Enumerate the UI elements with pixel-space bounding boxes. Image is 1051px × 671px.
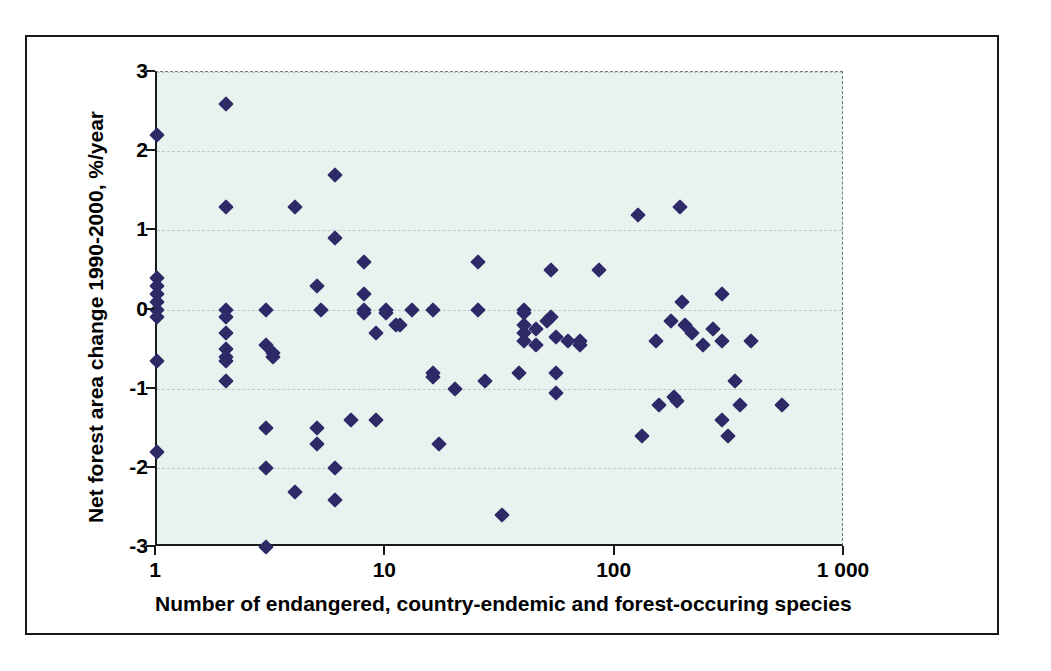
x-tick-label-10: 10	[373, 558, 396, 582]
data-point	[714, 333, 730, 349]
data-point	[727, 373, 743, 389]
data-point	[310, 278, 326, 294]
gridline-y-2	[157, 151, 842, 152]
data-point	[774, 397, 790, 413]
x-tick-label-1000: 1 000	[817, 558, 870, 582]
data-point	[310, 436, 326, 452]
data-point	[356, 254, 372, 270]
data-point	[705, 322, 721, 338]
data-point	[218, 325, 234, 341]
x-axis-title: Number of endangered, country-endemic an…	[155, 592, 843, 616]
y-tick-label--2: -2	[108, 455, 148, 479]
data-point	[287, 484, 303, 500]
data-point	[721, 428, 737, 444]
data-point	[648, 333, 664, 349]
y-tick-label-2: 2	[108, 138, 148, 162]
x-tick-1	[154, 546, 156, 555]
data-point	[672, 199, 688, 215]
data-point	[425, 302, 441, 318]
data-point	[328, 230, 344, 246]
y-tick-label-0: 0	[108, 297, 148, 321]
data-point	[714, 413, 730, 429]
data-point	[259, 420, 275, 436]
x-tick-100	[613, 546, 615, 555]
data-point	[548, 365, 564, 381]
data-point	[431, 436, 447, 452]
y-tick-label-3: 3	[108, 59, 148, 83]
gridline-y--1	[157, 389, 842, 390]
y-axis-title-wrap: Net forest area change 1990-2000, %/year	[62, 20, 96, 560]
gridline-y-3	[157, 72, 842, 73]
x-tick-1000	[842, 546, 844, 555]
data-point	[356, 286, 372, 302]
data-point	[310, 420, 326, 436]
x-axis-tick-labels: 1101001 000	[0, 558, 1051, 588]
data-point	[592, 262, 608, 278]
x-tick-label-1: 1	[149, 558, 161, 582]
data-point	[328, 460, 344, 476]
data-point	[470, 254, 486, 270]
data-point	[512, 365, 528, 381]
data-point	[328, 492, 344, 508]
data-point	[218, 96, 234, 112]
y-tick-label--3: -3	[108, 534, 148, 558]
data-point	[313, 302, 329, 318]
data-point	[664, 314, 680, 330]
scatter-plot-area	[155, 71, 843, 546]
data-point	[743, 333, 759, 349]
data-point	[543, 262, 559, 278]
gridline-y-1	[157, 230, 842, 231]
data-point	[368, 413, 384, 429]
data-point	[634, 428, 650, 444]
data-point	[652, 397, 668, 413]
y-tick-label--1: -1	[108, 376, 148, 400]
data-point	[630, 207, 646, 223]
data-point	[218, 373, 234, 389]
data-point	[470, 302, 486, 318]
data-point	[733, 397, 749, 413]
data-point	[259, 302, 275, 318]
data-point	[405, 302, 421, 318]
data-point	[477, 373, 493, 389]
data-point	[328, 167, 344, 183]
x-tick-label-100: 100	[596, 558, 631, 582]
x-tick-10	[383, 546, 385, 555]
data-point	[548, 385, 564, 401]
data-point	[448, 381, 464, 397]
data-point	[368, 325, 384, 341]
data-point	[218, 199, 234, 215]
data-point	[343, 413, 359, 429]
data-point	[259, 460, 275, 476]
data-point	[714, 286, 730, 302]
data-point	[494, 508, 510, 524]
data-point	[695, 337, 711, 353]
y-tick-label-1: 1	[108, 217, 148, 241]
data-point	[287, 199, 303, 215]
data-point	[674, 294, 690, 310]
y-axis-title: Net forest area change 1990-2000, %/year	[84, 37, 108, 597]
figure: -3-2-10123 1101001 000 Net forest area c…	[0, 0, 1051, 671]
